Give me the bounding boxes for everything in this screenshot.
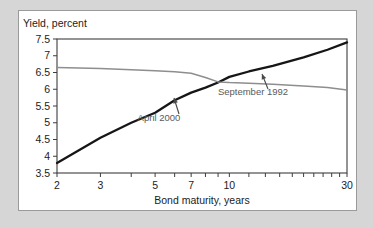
annotation-label: September 1992 (218, 86, 288, 97)
x-axis-tick-label: 30 (341, 179, 353, 191)
x-axis-tick-label: 2 (54, 179, 60, 191)
x-axis-tick-label: 10 (224, 179, 236, 191)
y-axis-tick-label: 7.5 (35, 33, 50, 45)
x-axis-tick-label: 7 (188, 179, 194, 191)
y-axis-title: Yield, percent (23, 17, 87, 29)
x-axis-tick-label: 3 (97, 179, 103, 191)
yield-curve-chart: Yield, percent7.576.565.554.543.52357103… (19, 11, 356, 210)
y-axis-tick-label: 4 (44, 150, 50, 162)
x-axis-title: Bond maturity, years (154, 194, 250, 206)
plot-frame (57, 39, 347, 173)
y-axis-tick-label: 6.5 (35, 66, 50, 78)
figure-panel: Yield, percent7.576.565.554.543.52357103… (18, 10, 357, 211)
x-axis-tick-label: 5 (152, 179, 158, 191)
y-axis-tick-label: 5.5 (35, 100, 50, 112)
y-axis-tick-label: 3.5 (35, 167, 50, 179)
y-axis-tick-label: 7 (44, 49, 50, 61)
series-line-september-1992 (57, 42, 347, 163)
series-line-april-2000 (57, 67, 347, 89)
y-axis-tick-label: 5 (44, 116, 50, 128)
y-axis-tick-label: 4.5 (35, 133, 50, 145)
annotation-label: April 2000 (138, 112, 181, 123)
y-axis-tick-label: 6 (44, 83, 50, 95)
